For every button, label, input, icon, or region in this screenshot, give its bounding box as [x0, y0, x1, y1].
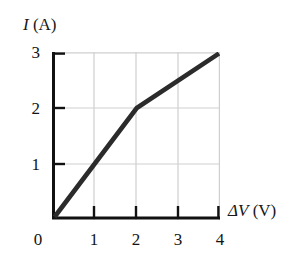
- y-tick-label-3: 3: [24, 44, 40, 61]
- x-axis-title: ΔV (V): [228, 202, 276, 219]
- y-axis-title: I (A): [23, 16, 57, 33]
- x-axis-symbol: ΔV: [228, 201, 248, 220]
- y-tick-label-2: 2: [24, 100, 40, 117]
- x-tick-label-2: 2: [128, 231, 144, 248]
- y-axis-unit: (A): [29, 15, 57, 34]
- plot-area: [52, 52, 220, 220]
- y-tick-label-1: 1: [24, 156, 40, 173]
- x-tick-label-0: 0: [30, 231, 46, 248]
- x-axis-unit: (V): [248, 201, 276, 220]
- plot-svg: [52, 52, 220, 220]
- x-tick-label-1: 1: [86, 231, 102, 248]
- iv-curve: [55, 54, 220, 218]
- y-axis-ticks: [54, 54, 65, 164]
- iv-characteristic-figure: I (A) ΔV (V) 3 2 1 0 1 2 3 4: [0, 0, 308, 263]
- x-tick-label-4: 4: [212, 231, 228, 248]
- x-tick-label-3: 3: [170, 231, 186, 248]
- x-axis-ticks: [94, 206, 218, 217]
